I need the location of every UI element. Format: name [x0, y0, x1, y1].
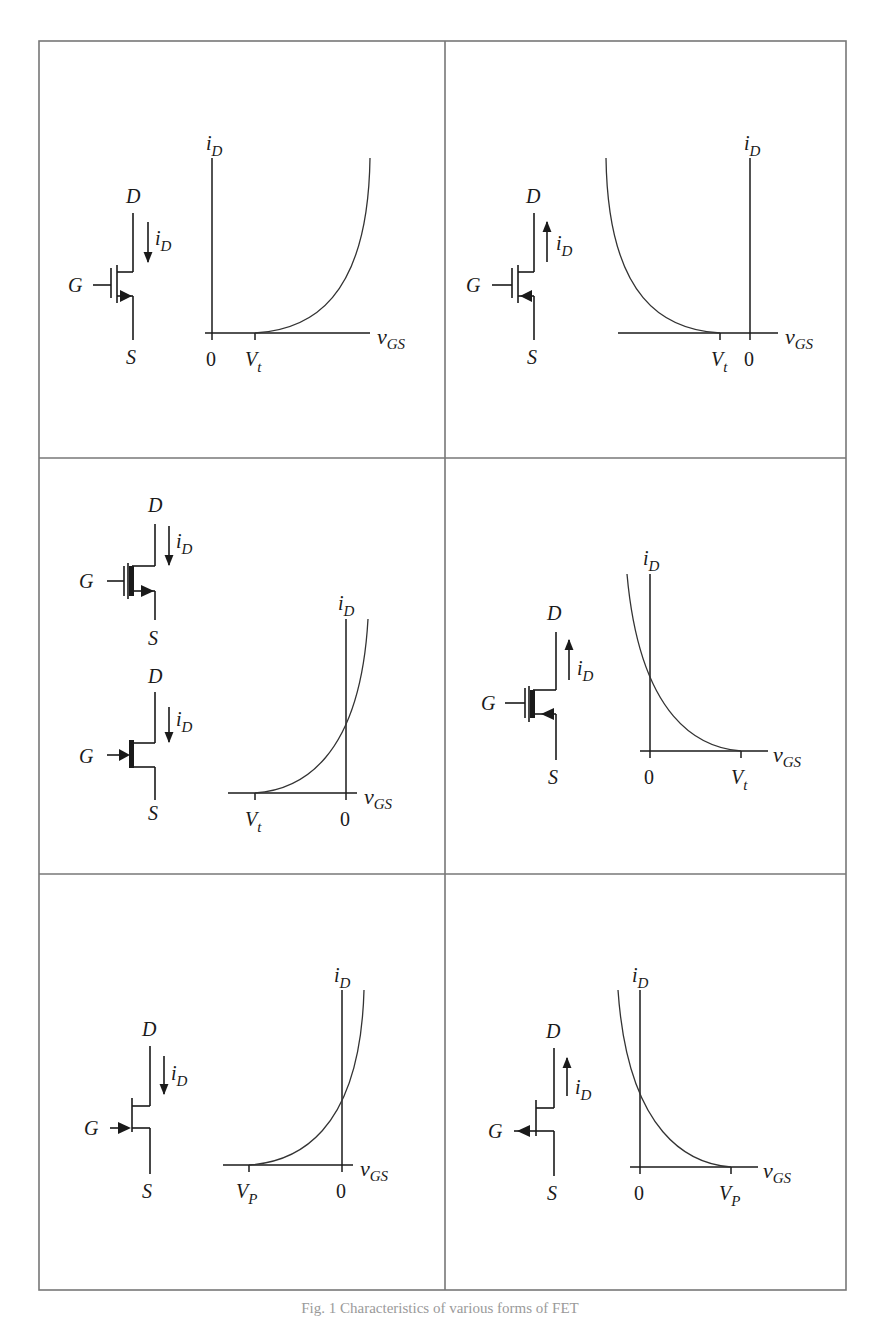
nmos-depletion-symbol [107, 524, 169, 620]
njfet-symbol-alt [107, 692, 169, 800]
x-axis-label: vGS [360, 1156, 389, 1184]
tick-vt: Vt [245, 808, 262, 835]
chart-enhancement-nmos: iD vGS 0 Vt [205, 132, 406, 375]
x-axis-label: vGS [785, 324, 814, 352]
y-axis-label: iD [338, 592, 355, 619]
source-label: S [148, 802, 158, 824]
chart-depletion-nmos: iD vGS Vt 0 [228, 592, 393, 835]
source-label: S [547, 1182, 557, 1204]
drain-label: D [147, 494, 163, 516]
tick-zero: 0 [336, 1180, 346, 1202]
chart-enhancement-pmos: iD vGS Vt 0 [606, 132, 814, 375]
gate-label: G [466, 274, 481, 296]
source-label: S [548, 766, 558, 788]
y-axis-label: iD [632, 964, 649, 991]
tick-vt: Vt [245, 348, 262, 375]
drain-label: D [545, 1020, 561, 1042]
x-axis-label: vGS [377, 324, 406, 352]
tick-zero: 0 [634, 1182, 644, 1204]
y-axis-label: iD [334, 964, 351, 991]
tick-vt: Vt [711, 348, 728, 375]
tick-vt: Vt [731, 766, 748, 793]
chart-depletion-pmos: iD vGS 0 Vt [627, 547, 802, 793]
drain-label: D [147, 665, 163, 687]
chart-n-jfet: iD vGS VP 0 [223, 964, 389, 1207]
gate-label: G [488, 1120, 503, 1142]
nmos-enhancement-symbol [93, 213, 148, 340]
current-label: iD [556, 232, 573, 259]
gate-label: G [84, 1117, 99, 1139]
current-label: iD [575, 1076, 592, 1103]
gate-label: G [79, 745, 94, 767]
njfet-symbol [110, 1046, 164, 1174]
panel-p-jfet: D G S iD iD vGS 0 VP [488, 964, 792, 1209]
source-arrow-icon [520, 290, 532, 302]
current-label: iD [155, 227, 172, 254]
current-label: iD [171, 1062, 188, 1089]
id-curve [627, 574, 741, 751]
y-axis-label: iD [744, 132, 761, 159]
x-axis-label: vGS [763, 1158, 792, 1186]
pmos-depletion-symbol [505, 632, 569, 760]
source-label: S [126, 346, 136, 368]
source-label: S [527, 346, 537, 368]
source-arrow-icon [120, 290, 132, 302]
source-arrow-icon [141, 585, 154, 597]
tick-zero: 0 [644, 766, 654, 788]
source-label: S [142, 1180, 152, 1202]
drain-label: D [141, 1018, 157, 1040]
panel-depletion-nmos: D G S iD D G S iD iD vGS Vt [79, 494, 393, 835]
gate-arrow-icon [119, 749, 130, 761]
drain-label: D [546, 602, 562, 624]
id-curve [618, 990, 731, 1167]
id-curve [255, 619, 368, 793]
id-curve [249, 990, 364, 1165]
tick-zero: 0 [206, 348, 216, 370]
panel-n-jfet: D G S iD iD vGS VP 0 [84, 964, 389, 1207]
x-axis-label: vGS [773, 742, 802, 770]
tick-zero: 0 [744, 348, 754, 370]
chart-p-jfet: iD vGS 0 VP [618, 964, 792, 1209]
source-arrow-icon [541, 708, 554, 720]
panel-enhancement-pmos: D G S iD iD vGS Vt 0 [466, 132, 814, 375]
current-label: iD [577, 657, 594, 684]
x-axis-label: vGS [364, 784, 393, 812]
tick-zero: 0 [340, 808, 350, 830]
pmos-enhancement-symbol [492, 213, 547, 340]
gate-label: G [68, 274, 83, 296]
panel-depletion-pmos: D G S iD iD vGS 0 Vt [481, 547, 802, 793]
y-axis-label: iD [206, 132, 223, 159]
panel-enhancement-nmos: D G S iD iD vGS 0 Vt [68, 132, 406, 375]
id-curve [255, 158, 370, 333]
source-label: S [148, 627, 158, 649]
figure-caption: Fig. 1 Characteristics of various forms … [0, 1300, 880, 1317]
gate-arrow-icon [118, 1122, 131, 1134]
gate-label: G [79, 570, 94, 592]
tick-vp: VP [236, 1180, 257, 1207]
tick-vp: VP [719, 1182, 740, 1209]
gate-label: G [481, 692, 496, 714]
pjfet-symbol [514, 1048, 567, 1176]
gate-arrow-icon [517, 1125, 530, 1137]
current-label: iD [176, 530, 193, 557]
drain-label: D [525, 185, 541, 207]
drain-label: D [125, 185, 141, 207]
current-label: iD [176, 708, 193, 735]
y-axis-label: iD [643, 547, 660, 574]
id-curve [606, 158, 720, 333]
